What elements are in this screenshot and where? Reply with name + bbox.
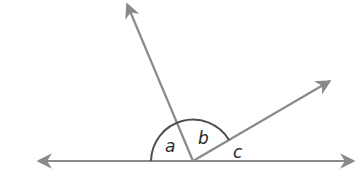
angle-label-c: c (233, 142, 243, 162)
angle-label-a: a (165, 136, 175, 156)
angle-diagram: a b c (0, 0, 364, 176)
diagonal-ray (193, 81, 330, 161)
angle-label-b: b (198, 128, 209, 148)
diagram-svg: a b c (0, 0, 364, 176)
upper-ray (127, 4, 193, 161)
